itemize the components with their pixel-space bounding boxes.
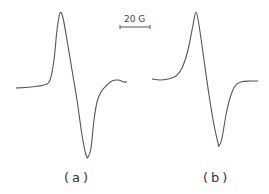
scale-bar-label: 20 G	[124, 14, 145, 24]
panel-label-b: (b)	[203, 170, 230, 185]
panel-label-a: (a)	[64, 170, 91, 185]
scale-bar	[120, 25, 150, 29]
spectrum-b-line	[152, 12, 258, 146]
epr-spectra-chart	[0, 0, 269, 194]
spectrum-a-line	[16, 12, 127, 158]
